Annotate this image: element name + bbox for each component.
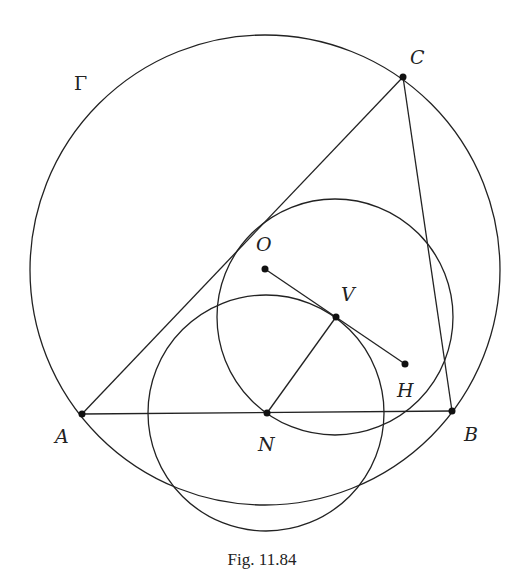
label-c: C xyxy=(410,48,425,67)
figure-caption: Fig. 11.84 xyxy=(0,550,524,570)
point-a xyxy=(79,411,86,418)
label-gamma: Γ xyxy=(74,74,87,93)
point-c xyxy=(400,74,407,81)
point-o xyxy=(262,266,269,273)
point-b xyxy=(449,408,456,415)
label-h: H xyxy=(397,381,414,400)
label-n: N xyxy=(258,435,275,454)
segment-ca xyxy=(82,77,403,414)
label-o: O xyxy=(256,235,272,254)
segment-nv xyxy=(267,317,336,413)
label-v: V xyxy=(341,285,355,304)
point-h xyxy=(402,361,409,368)
point-n xyxy=(264,410,271,417)
label-b: B xyxy=(464,425,478,444)
label-a: A xyxy=(55,427,69,446)
segment-bc xyxy=(403,77,452,411)
point-v xyxy=(333,314,340,321)
